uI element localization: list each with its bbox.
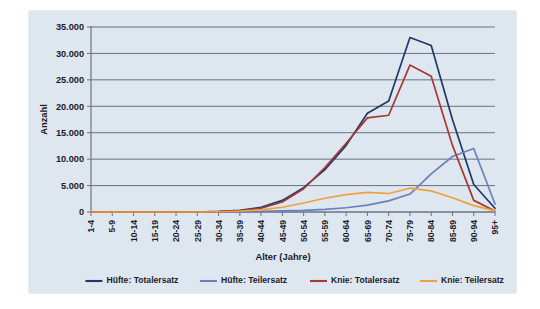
y-tick-label: 15.000	[56, 128, 84, 138]
x-tick-label: 15-19	[150, 220, 160, 242]
x-tick-label: 10-14	[129, 220, 139, 242]
x-tick-label: 30-34	[214, 220, 224, 242]
chart-card: 05.00010.00015.00020.00025.00030.00035.0…	[29, 11, 516, 293]
x-tick-label: 95+	[490, 220, 500, 235]
y-tick-label: 5.000	[61, 181, 84, 191]
legend-label: Hüfte: Teilersatz	[221, 275, 287, 285]
x-tick-label: 35-39	[235, 220, 245, 242]
x-tick-label: 75-79	[405, 220, 415, 242]
series-line	[91, 65, 495, 212]
x-tick-label: 55-59	[320, 220, 330, 242]
x-tick-label: 20-24	[171, 220, 181, 242]
x-tick-labels-group: 1-45-910-1415-1920-2425-2930-3435-3940-4…	[86, 220, 500, 242]
x-tick-label: 80-84	[426, 220, 436, 242]
y-tick-label: 35.000	[56, 22, 84, 32]
x-tick-label: 50-54	[299, 220, 309, 242]
legend-label: Knie: Teilersatz	[441, 275, 504, 285]
y-tick-label: 30.000	[56, 49, 84, 59]
x-tick-label: 90-94	[469, 220, 479, 242]
y-tick-label: 20.000	[56, 102, 84, 112]
x-tick-label: 1-4	[86, 220, 96, 233]
y-tick-label: 0	[79, 207, 84, 217]
x-tick-label: 85-89	[448, 220, 458, 242]
legend-label: Hüfte: Totalersatz	[106, 275, 178, 285]
series-line	[91, 149, 495, 212]
x-tick-label: 5-9	[107, 220, 117, 233]
x-tick-label: 25-29	[193, 220, 203, 242]
y-tick-labels-group: 05.00010.00015.00020.00025.00030.00035.0…	[56, 22, 84, 217]
chart-page: 05.00010.00015.00020.00025.00030.00035.0…	[0, 0, 540, 309]
chart-figure: 05.00010.00015.00020.00025.00030.00035.0…	[29, 11, 516, 293]
x-tick-label: 45-49	[278, 220, 288, 242]
x-tick-label: 70-74	[384, 220, 394, 242]
x-axis-title: Alter (Jahre)	[255, 251, 310, 262]
series-line	[91, 188, 495, 212]
y-axis-title: Anzahl	[38, 104, 49, 135]
x-tick-label: 60-64	[341, 220, 351, 242]
y-tick-label: 25.000	[56, 75, 84, 85]
chart-legend: Hüfte: TotalersatzHüfte: TeilersatzKnie:…	[85, 275, 503, 285]
legend-label: Knie: Totalersatz	[331, 275, 400, 285]
x-tick-label: 65-69	[363, 220, 373, 242]
x-tick-label: 40-44	[256, 220, 266, 242]
y-tick-label: 10.000	[56, 154, 84, 164]
